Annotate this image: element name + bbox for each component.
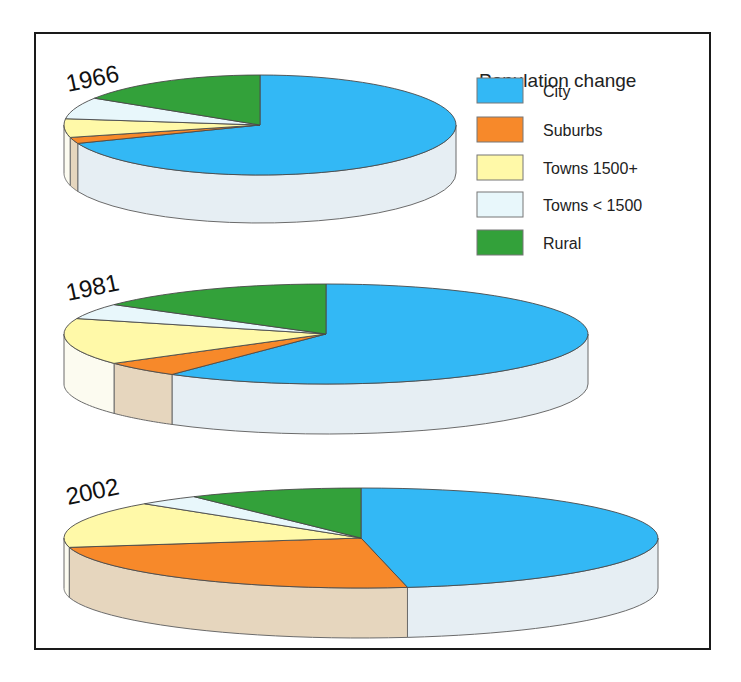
year-label-1981: 1981 xyxy=(63,268,121,306)
pie-1981: 1981 xyxy=(63,268,588,434)
legend-swatch-towns-1500-plus xyxy=(477,155,523,180)
pie-chart-canvas: 196619812002 Population change City Subu… xyxy=(0,0,741,682)
legend-swatch-towns-under-1500 xyxy=(477,192,523,217)
legend-label-towns-under-1500: Towns < 1500 xyxy=(543,197,642,214)
legend-label-suburbs: Suburbs xyxy=(543,122,603,139)
year-label-2002: 2002 xyxy=(63,472,121,510)
legend-label-rural: Rural xyxy=(543,235,581,252)
year-label-1966: 1966 xyxy=(63,59,121,97)
legend-item-towns-under-1500: Towns < 1500 xyxy=(477,192,642,217)
legend: Population change City Suburbs Towns 150… xyxy=(477,70,642,255)
legend-swatch-suburbs xyxy=(477,117,523,142)
legend-swatch-city xyxy=(477,78,523,103)
legend-item-towns-1500-plus: Towns 1500+ xyxy=(477,155,638,180)
side-suburbs-1966 xyxy=(70,137,78,191)
pies-group: 196619812002 xyxy=(63,59,658,638)
legend-item-rural: Rural xyxy=(477,230,581,255)
pie-1966: 1966 xyxy=(63,59,456,223)
legend-swatch-rural xyxy=(477,230,523,255)
legend-label-towns-1500-plus: Towns 1500+ xyxy=(543,160,638,177)
pie-2002: 2002 xyxy=(63,472,658,638)
legend-label-city: City xyxy=(543,83,571,100)
legend-item-suburbs: Suburbs xyxy=(477,117,603,142)
